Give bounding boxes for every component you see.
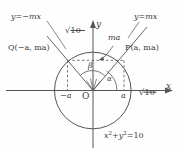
label-ma: ma	[108, 34, 120, 42]
label-right-ray-equation: y=mx	[134, 13, 157, 21]
label-angle-beta: β	[88, 62, 93, 70]
diagram-canvas	[0, 0, 181, 153]
leader-line-right-ray-label	[128, 22, 139, 38]
label-radius-sqrt10-upper: √10	[65, 27, 81, 35]
label-point-q: Q(−a, ma)	[8, 44, 50, 52]
math-figure: y=−mx y=mx y x √10 ma Q(−a, ma) P(a, ma)…	[0, 0, 181, 153]
label-y-axis: y	[96, 20, 101, 29]
label-origin: O	[82, 92, 89, 101]
label-circle-equation: x2+y2=10	[104, 131, 144, 140]
leader-line-left-ray-label	[47, 21, 66, 49]
sqrt-value-upper: 10	[70, 26, 81, 35]
label-tick-neg-a: −a	[60, 92, 71, 100]
label-point-p: P(a, ma)	[125, 44, 159, 52]
label-radius-sqrt10-axis: √10	[139, 89, 155, 97]
label-x-axis: x	[166, 82, 171, 91]
sqrt-value-axis: 10	[144, 88, 155, 97]
eq-rhs: =10	[127, 131, 144, 140]
ray-y-equals-minus-mx	[47, 36, 93, 91]
label-angle-alpha: α	[107, 76, 112, 83]
label-tick-pos-a: a	[121, 92, 126, 100]
label-left-ray-equation: y=−mx	[11, 13, 41, 21]
eq-plus: +	[112, 131, 119, 140]
